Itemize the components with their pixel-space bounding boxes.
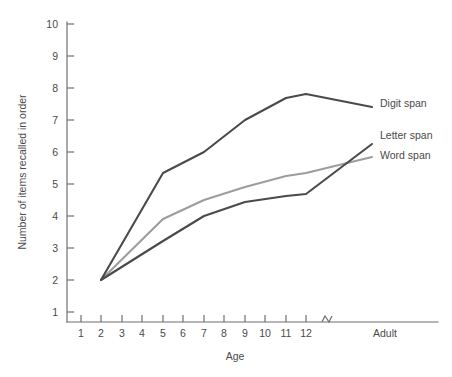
x-tick-label-1: 1: [78, 327, 84, 339]
y-axis-ticks: 10 9 8 7 6 5 4 3 2 1: [46, 18, 74, 318]
y-tick-label-5: 5: [52, 178, 58, 190]
legend-label-digit-span: Digit span: [380, 97, 427, 109]
x-tick-label-adult: Adult: [373, 327, 397, 339]
x-tick-label-11: 11: [281, 327, 292, 339]
x-tick-label-5: 5: [160, 327, 166, 339]
y-tick-label-2: 2: [52, 274, 58, 286]
chart-container: 10 9 8 7 6 5 4 3 2 1 1 2: [0, 0, 452, 377]
x-tick-label-4: 4: [139, 327, 145, 339]
y-tick-label-3: 3: [52, 242, 58, 254]
legend-label-letter-span: Letter span: [380, 129, 433, 141]
x-tick-label-3: 3: [119, 327, 125, 339]
x-axis-ticks: 1 2 3 4 5 6 7 8 9 10 11 12 Adult: [78, 315, 397, 339]
x-tick-label-9: 9: [242, 327, 248, 339]
line-chart: 10 9 8 7 6 5 4 3 2 1 1 2: [0, 0, 452, 377]
y-tick-label-4: 4: [52, 210, 58, 222]
y-tick-label-10: 10: [46, 18, 58, 30]
x-tick-label-7: 7: [201, 327, 207, 339]
series-line-digit-span: [101, 94, 372, 280]
x-tick-label-10: 10: [259, 327, 271, 339]
axis-break-icon: [322, 316, 332, 322]
x-axis-title: Age: [226, 350, 245, 362]
x-tick-label-2: 2: [98, 327, 104, 339]
series-line-letter-span: [101, 144, 372, 280]
y-tick-label-6: 6: [52, 146, 58, 158]
y-tick-label-1: 1: [52, 306, 58, 318]
y-tick-label-9: 9: [52, 50, 58, 62]
y-axis-title: Number of items recalled in order: [16, 94, 28, 250]
y-tick-label-7: 7: [52, 114, 58, 126]
x-tick-label-8: 8: [221, 327, 227, 339]
x-tick-label-6: 6: [180, 327, 186, 339]
legend-label-word-span: Word span: [380, 149, 431, 161]
x-tick-label-12: 12: [300, 327, 312, 339]
y-tick-label-8: 8: [52, 82, 58, 94]
